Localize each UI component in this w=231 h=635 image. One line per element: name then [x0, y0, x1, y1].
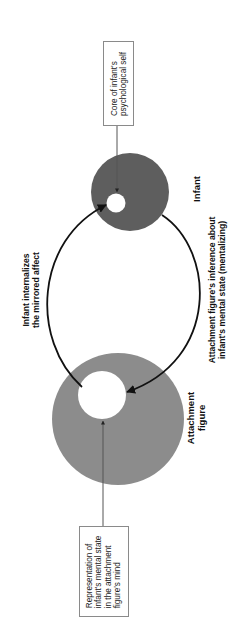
representation-line-1: Representation of	[85, 535, 94, 608]
infant-node	[91, 153, 169, 231]
infant-label: Infant	[192, 176, 203, 202]
core-self-line-1: Core of infant's	[109, 51, 118, 115]
attachment-figure-label: Attachment figure	[186, 392, 207, 444]
mentalizing-label: Attachment figure's inference about infa…	[208, 217, 227, 364]
attachment-label-line-2: figure	[197, 392, 208, 444]
infant-core-self-circle	[107, 194, 126, 213]
infant-circle	[91, 153, 169, 231]
attachment-figure-node	[52, 353, 184, 485]
infant-label-text: Infant	[191, 176, 202, 202]
representation-line-3: in the attachment	[104, 535, 113, 608]
representation-callout-text: Representation of infant's mental state …	[85, 535, 123, 608]
representation-callout-box: Representation of infant's mental state …	[79, 526, 129, 617]
internalizes-label: Infant internalizes the mirrored affect	[22, 252, 41, 328]
internalizes-label-line-2: the mirrored affect	[32, 252, 42, 328]
attachment-figure-circle	[52, 353, 184, 485]
representation-line-4: figure's mind	[113, 535, 122, 608]
attachment-inner-representation-circle	[78, 371, 126, 419]
mentalizing-label-line-2: infant's mental state (mentalizing)	[218, 217, 228, 364]
core-self-callout-text: Core of infant's psychological self	[109, 51, 128, 115]
core-self-callout-box: Core of infant's psychological self	[103, 41, 134, 126]
core-self-line-2: psychological self	[119, 51, 128, 115]
representation-line-2: infant's mental state	[95, 535, 104, 608]
